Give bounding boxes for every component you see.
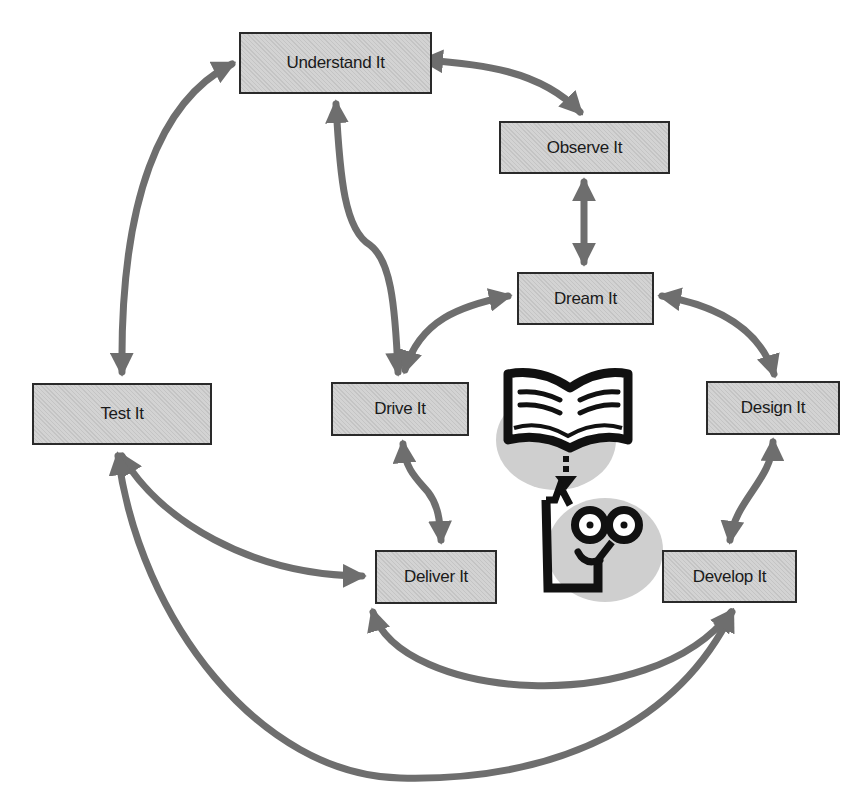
node-drive: Drive It	[331, 382, 469, 436]
node-deliver: Deliver It	[375, 550, 497, 604]
node-label: Observe It	[547, 138, 622, 158]
diagram-canvas: Understand It Observe It Dream It Test I…	[0, 0, 868, 805]
node-develop: Develop It	[662, 550, 797, 603]
node-label: Test It	[100, 404, 143, 424]
node-label: Drive It	[374, 399, 425, 419]
thinking-face-icon	[546, 486, 663, 602]
node-observe: Observe It	[499, 121, 670, 174]
node-test: Test It	[32, 383, 212, 445]
open-book-icon	[496, 373, 628, 490]
node-label: Deliver It	[404, 567, 468, 587]
node-design: Design It	[706, 381, 840, 435]
node-understand: Understand It	[239, 32, 432, 94]
node-dream: Dream It	[517, 272, 654, 325]
node-label: Design It	[741, 398, 805, 418]
node-label: Dream It	[554, 289, 617, 309]
node-label: Develop It	[693, 567, 767, 587]
node-label: Understand It	[286, 53, 384, 73]
